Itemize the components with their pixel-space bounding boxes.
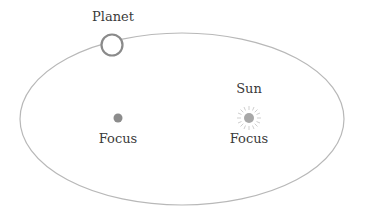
focus-right-label: Focus [230,131,268,146]
diagram-canvas [0,0,375,211]
planet-label: Planet [92,9,134,24]
orbit-diagram: Planet Sun Focus Focus [0,0,375,211]
sun-label: Sun [236,81,262,96]
focus-left-label: Focus [99,131,137,146]
orbit-ellipse [20,33,344,205]
planet-icon [102,35,123,56]
sun-icon [237,106,261,130]
focus-left-dot [114,114,123,123]
